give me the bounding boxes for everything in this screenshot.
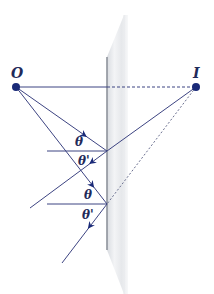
- reflected-ray-1: [30, 151, 107, 208]
- plane-mirror: [107, 15, 128, 294]
- angle-label-theta-prime-1: θ': [78, 154, 90, 168]
- angle-label-theta-2: θ: [84, 188, 92, 202]
- angle-label-theta-prime-2: θ': [82, 208, 94, 222]
- object-point: [12, 83, 20, 91]
- image-label: I: [192, 65, 200, 81]
- mirror-glass: [107, 15, 128, 294]
- object-label: O: [11, 65, 24, 81]
- image-point: [192, 83, 200, 91]
- angle-label-theta-1: θ: [75, 135, 83, 149]
- diagram-canvas: O I θ θ' θ θ': [0, 0, 214, 294]
- incident-ray-2: [16, 87, 107, 204]
- mirror-reflection-diagram: O I θ θ' θ θ': [0, 0, 214, 294]
- incident-ray-1: [16, 87, 107, 151]
